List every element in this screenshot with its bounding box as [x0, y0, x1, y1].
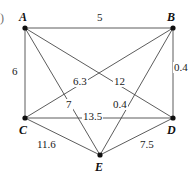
vertex-label-c: C — [19, 124, 27, 136]
edge-weight-ac: 6 — [11, 66, 19, 77]
vertex-dot-d — [170, 115, 175, 120]
vertex-dot-c — [22, 115, 27, 120]
vertex-dot-e — [97, 152, 102, 157]
edge-weight-ab: 5 — [96, 12, 104, 23]
edge-weight-cd: 13.5 — [82, 111, 103, 122]
vertex-label-a: A — [19, 11, 27, 23]
edge-weight-bc: 12 — [113, 76, 126, 87]
edge-be — [100, 28, 173, 155]
edge-weight-ce: 11.6 — [36, 139, 57, 150]
edge-weight-ae: 7 — [65, 99, 73, 110]
vertex-dot-b — [170, 25, 175, 30]
edge-weight-be: 0.4 — [112, 99, 128, 110]
edges-group — [25, 28, 173, 155]
vertex-label-d: D — [167, 124, 176, 136]
vertex-label-b: B — [167, 11, 175, 23]
edge-weight-ad: 6.3 — [72, 76, 88, 87]
edge-weight-bd: 0.4 — [173, 62, 189, 73]
graph-canvas — [0, 0, 195, 176]
vertex-label-e: E — [95, 161, 103, 173]
edge-ae — [25, 28, 100, 155]
vertex-dot-a — [22, 25, 27, 30]
edge-weight-de: 7.5 — [139, 139, 155, 150]
graph-diagram-figure: ) 566.37120.40.413.511.67.5 ABCDE — [0, 0, 195, 176]
